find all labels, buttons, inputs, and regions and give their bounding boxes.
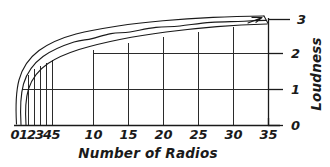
vertical-gridlines bbox=[29, 27, 234, 125]
y-tick-label-3: 3 bbox=[297, 12, 306, 27]
y-tick-marks bbox=[268, 20, 290, 126]
y-tick-labels: 0 1 2 3 bbox=[291, 12, 306, 133]
chart-canvas: 0 1 2 3 4 5 10 15 20 25 30 35 0 1 2 3 Nu… bbox=[0, 0, 330, 167]
y-tick-label-0: 0 bbox=[291, 118, 300, 133]
horizontal-gridlines bbox=[22, 54, 268, 90]
curve-stroke-middle bbox=[21, 20, 266, 124]
x-tick-label-15: 15 bbox=[119, 127, 137, 142]
curve-stroke-upper bbox=[16, 16, 264, 124]
x-tick-labels: 0 1 2 3 4 5 10 15 20 25 30 35 bbox=[10, 127, 277, 142]
loudness-curve bbox=[16, 16, 267, 125]
axis-lines bbox=[14, 18, 280, 126]
y-tick-label-2: 2 bbox=[291, 46, 300, 61]
x-tick-label-20: 20 bbox=[154, 127, 172, 142]
x-tick-label-5: 5 bbox=[51, 127, 60, 142]
loudness-vs-radios-chart: 0 1 2 3 4 5 10 15 20 25 30 35 0 1 2 3 Nu… bbox=[0, 0, 330, 167]
x-tick-label-10: 10 bbox=[84, 127, 102, 142]
x-axis-title: Number of Radios bbox=[78, 145, 217, 161]
x-tick-label-35: 35 bbox=[259, 127, 277, 142]
y-tick-label-1: 1 bbox=[291, 82, 300, 97]
x-tick-label-30: 30 bbox=[224, 127, 242, 142]
y-axis-title: Loudness bbox=[308, 37, 324, 111]
x-tick-label-25: 25 bbox=[189, 127, 207, 142]
